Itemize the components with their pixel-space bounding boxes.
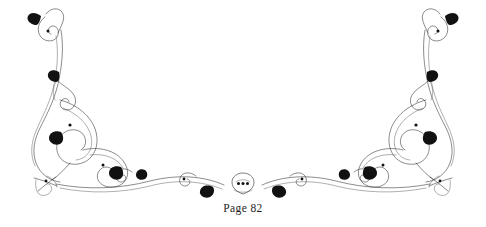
shield-dot-3-icon xyxy=(246,182,249,185)
right-top-leaf-icon xyxy=(445,13,459,25)
right-top-dot-icon xyxy=(437,30,440,33)
left-baseline-dot-b xyxy=(183,178,186,181)
right-tassel-knot xyxy=(429,176,452,195)
right-baseline-dot-b xyxy=(301,178,304,181)
right-spine-descender xyxy=(424,30,453,182)
left-baseline-leaf-a xyxy=(136,169,147,179)
shield-dot-2-icon xyxy=(242,182,245,185)
right-main-spine xyxy=(422,9,440,33)
left-tassel-dot xyxy=(45,180,48,183)
right-tassel-dot xyxy=(439,180,442,183)
right-flourish-group xyxy=(262,9,459,198)
left-tassel-connector xyxy=(52,163,70,180)
left-mid-leaf-icon xyxy=(48,70,60,82)
left-lower-dot-icon xyxy=(68,123,71,126)
left-main-spine xyxy=(46,9,64,33)
flourish-ornament xyxy=(0,0,486,227)
left-lower-teardrop xyxy=(57,100,97,164)
left-baseline-curl-b xyxy=(180,173,196,186)
shield-dot-1-icon xyxy=(237,182,240,185)
left-baseline-leaf-b xyxy=(200,186,214,198)
left-vertical-scroll xyxy=(38,17,58,41)
right-lower-teardrop xyxy=(389,100,429,164)
left-ribbon-inner xyxy=(32,36,58,166)
left-baseline-dot-a xyxy=(117,174,120,177)
left-secondary-loop-inner xyxy=(90,155,123,168)
right-mid-leaf-icon xyxy=(427,70,439,82)
right-baseline-leaf-b xyxy=(272,186,286,198)
right-secondary-loop-inner xyxy=(363,155,396,168)
page-canvas: Page 82 xyxy=(0,0,486,227)
right-secondary-dot-icon xyxy=(382,164,385,167)
left-mid-stem xyxy=(57,80,76,110)
center-shield-motif xyxy=(232,173,254,194)
left-spine-descender xyxy=(34,30,63,182)
right-baseline-leaf-a xyxy=(339,169,350,179)
page-label: Page 82 xyxy=(0,202,486,214)
right-vertical-scroll xyxy=(428,17,448,41)
left-lower-leaf-icon xyxy=(49,131,63,144)
left-secondary-dot-icon xyxy=(102,164,105,167)
right-ribbon-inner xyxy=(429,36,455,166)
right-tassel-connector xyxy=(416,163,434,180)
left-top-dot-icon xyxy=(47,30,50,33)
left-tassel-knot xyxy=(34,176,57,195)
right-baseline-dot-a xyxy=(367,174,370,177)
right-baseline-curl-b xyxy=(290,173,306,186)
right-mid-stem xyxy=(410,80,429,110)
left-flourish-group xyxy=(27,9,224,198)
right-lower-leaf-icon xyxy=(423,131,437,144)
right-lower-dot-icon xyxy=(414,123,417,126)
left-top-leaf-icon xyxy=(27,13,41,25)
